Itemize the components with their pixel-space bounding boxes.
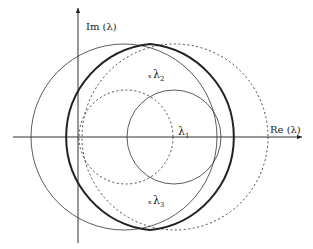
svg-text:λ: λ: [153, 194, 160, 207]
lambda-3-label: x λ 3: [148, 194, 164, 209]
imaginary-axis-label: Im (λ): [86, 21, 117, 32]
eigenvalue-diagram: Im (λ) Re (λ) λ 1 x λ 2 x λ 3: [0, 0, 313, 249]
point-marker-icon: x: [148, 72, 152, 79]
svg-text:3: 3: [160, 201, 164, 209]
lambda-1-label: λ 1: [178, 125, 189, 140]
lambda-2-label: x λ 2: [148, 68, 164, 83]
svg-text:λ: λ: [178, 125, 185, 138]
svg-text:1: 1: [185, 132, 189, 140]
point-marker-icon: x: [148, 198, 152, 205]
svg-text:2: 2: [160, 75, 164, 83]
real-axis-label: Re (λ): [270, 124, 301, 135]
svg-text:λ: λ: [153, 68, 160, 81]
